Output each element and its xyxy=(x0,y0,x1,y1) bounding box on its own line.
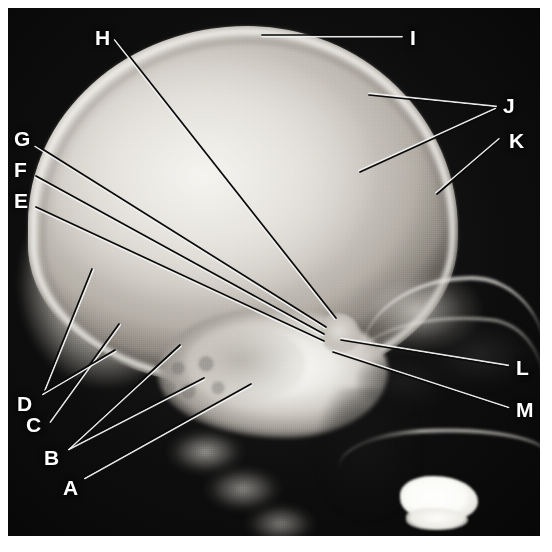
label-b: B xyxy=(44,447,59,468)
leader-line-f xyxy=(35,176,324,335)
label-k: K xyxy=(509,130,524,151)
label-g: G xyxy=(14,128,31,149)
leader-line-j xyxy=(359,109,496,172)
leader-line-j xyxy=(369,93,496,108)
leader-line-d xyxy=(42,269,93,394)
label-l: L xyxy=(516,357,529,378)
label-d: D xyxy=(17,393,32,414)
leader-line-group xyxy=(0,0,552,552)
label-j: J xyxy=(503,95,515,116)
annotation-overlay: ABCDEFGHIJKLM xyxy=(0,0,552,552)
label-a: A xyxy=(63,477,78,498)
leader-line-b xyxy=(68,378,205,449)
leader-line-e xyxy=(35,207,324,342)
leader-line-h xyxy=(115,39,336,319)
label-i: I xyxy=(410,27,416,48)
label-f: F xyxy=(14,159,27,180)
leader-line-d xyxy=(42,350,116,394)
leader-line-k xyxy=(436,139,500,194)
label-h: H xyxy=(95,27,110,48)
label-m: M xyxy=(516,399,534,420)
leader-line-m xyxy=(333,350,508,409)
label-c: C xyxy=(26,414,41,435)
screenshot-root: ABCDEFGHIJKLM xyxy=(0,0,552,552)
label-e: E xyxy=(14,190,28,211)
leader-line-i xyxy=(262,35,402,37)
leader-line-c xyxy=(49,324,120,422)
